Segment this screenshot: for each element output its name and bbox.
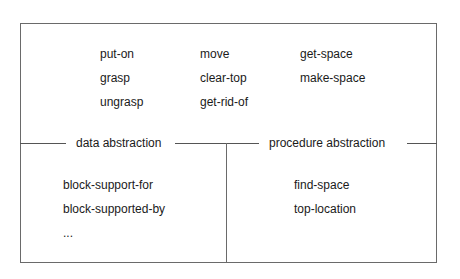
procedure-item-top-location: top-location [294, 202, 356, 216]
procedure-abstraction-label: procedure abstraction [269, 136, 385, 150]
function-put-on: put-on [100, 47, 134, 61]
function-ungrasp: ungrasp [100, 95, 143, 109]
procedure-item-find-space: find-space [294, 178, 349, 192]
function-grasp: grasp [100, 71, 130, 85]
function-clear-top: clear-top [200, 71, 247, 85]
function-get-rid-of: get-rid-of [200, 95, 248, 109]
data-item-block-support-for: block-support-for [63, 178, 153, 192]
data-item-block-supported-by: block-supported-by [63, 202, 165, 216]
divider-left [20, 143, 66, 144]
data-item-ellipsis: ... [63, 226, 73, 240]
section-divider [226, 143, 227, 263]
function-make-space: make-space [300, 71, 365, 85]
divider-middle [175, 143, 259, 144]
function-move: move [200, 47, 229, 61]
function-get-space: get-space [300, 47, 353, 61]
data-abstraction-label: data abstraction [76, 136, 161, 150]
divider-right [407, 143, 437, 144]
